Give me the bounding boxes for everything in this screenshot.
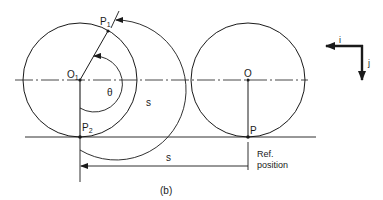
svg-text:O1: O1	[67, 69, 79, 81]
label-p2-sub: 2	[89, 127, 93, 134]
label-p: P	[250, 125, 257, 136]
point-p1	[106, 29, 109, 32]
svg-text:P1: P1	[100, 16, 111, 28]
figure-caption: (b)	[160, 185, 172, 196]
label-i: i	[339, 35, 341, 45]
axes-indicator: i j	[326, 35, 370, 80]
right-wheel: O P Ref. position	[191, 23, 305, 170]
label-o: O	[244, 68, 252, 79]
p1-tick	[111, 11, 119, 28]
label-displacement-s: s	[166, 152, 171, 163]
left-wheel: O1 P1 P2 θ s	[23, 11, 186, 182]
label-arc-s: s	[146, 97, 151, 108]
label-position: position	[257, 160, 288, 170]
rolling-wheel-diagram: O1 P1 P2 θ s O P Ref. position s i j (b)	[0, 0, 383, 200]
label-o1-sub: 1	[75, 74, 79, 81]
arc-length-arc	[80, 20, 186, 160]
theta-arc	[80, 56, 122, 112]
label-ref: Ref.	[257, 149, 274, 159]
label-theta: θ	[107, 87, 113, 98]
radius-o1-p1	[80, 31, 108, 80]
point-o1	[78, 78, 81, 81]
svg-text:P2: P2	[82, 122, 93, 134]
label-p1-sub: 1	[107, 21, 111, 28]
label-j: j	[367, 58, 370, 68]
